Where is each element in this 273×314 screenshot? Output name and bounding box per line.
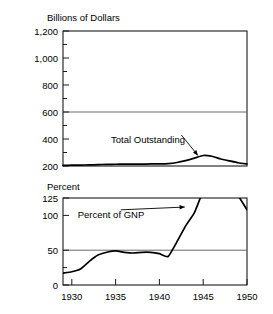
bottom-ylabel-100: 100 [42,210,58,221]
top-ylabel-1000: 1,000 [34,53,58,64]
top-ylabel-1200: 1,200 [34,26,58,37]
chart-background [0,0,273,314]
xlabel-1945: 1945 [193,291,214,302]
xlabel-1935: 1935 [105,291,126,302]
top-ylabel-200: 200 [42,161,58,172]
bottom-ylabel-125: 125 [42,193,58,204]
xlabel-1950: 1950 [236,291,257,302]
xlabel-1930: 1930 [61,291,82,302]
top-axis-title: Billions of Dollars [47,12,120,23]
top-ylabel-400: 400 [42,134,58,145]
bottom-annotation-label: Percent of GNP [78,209,145,220]
dual-panel-line-chart: Billions of Dollars 1,200 1,000 800 600 [0,0,273,314]
bottom-axis-title: Percent [47,181,80,192]
top-ylabel-800: 800 [42,80,58,91]
top-ylabel-600: 600 [42,107,58,118]
bottom-ylabel-0: 0 [53,280,58,291]
figure-container: Billions of Dollars 1,200 1,000 800 600 [0,0,273,314]
xlabel-1940: 1940 [149,291,170,302]
bottom-ylabel-50: 50 [47,245,58,256]
top-annotation-label: Total Outstanding [111,134,185,145]
